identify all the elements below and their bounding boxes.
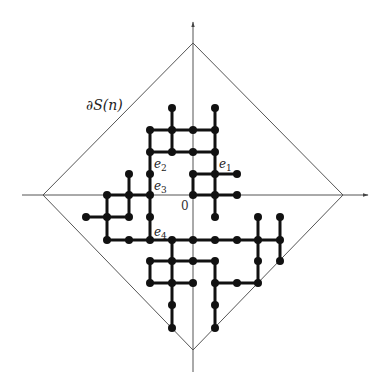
origin-label: 0 — [181, 199, 189, 213]
edge-label-e3: e3 — [154, 179, 167, 195]
boundary-label: ∂S(n) — [86, 97, 123, 113]
edge-label-e2: e2 — [154, 157, 167, 173]
cluster-edges — [86, 108, 280, 328]
edge-label-e1: e1 — [219, 157, 232, 173]
percolation-cluster-diagram: ∂S(n) 0 e1 e2 e3 e4 — [0, 0, 382, 390]
edge-label-e4: e4 — [154, 225, 167, 241]
